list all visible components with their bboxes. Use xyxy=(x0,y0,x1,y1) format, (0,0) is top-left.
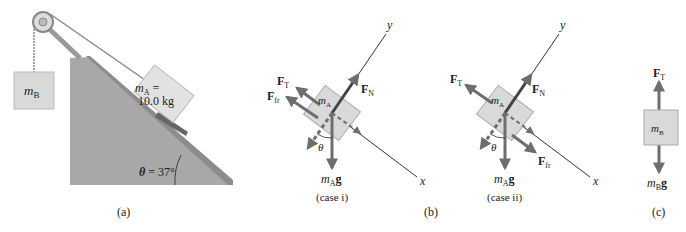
theta-arc xyxy=(317,134,332,138)
friction-label: Ffr xyxy=(267,89,280,105)
panel-c-label: (c) xyxy=(652,205,665,219)
pulley-hub xyxy=(39,18,47,26)
theta-label: θ xyxy=(318,141,324,153)
panel-b-case-ii: y x θ FT FN Ffr mA mAg (case ii) xyxy=(450,18,599,204)
case-i-label: (case i) xyxy=(316,191,348,204)
figure: mB mA = 10.0 kg θ = 37° (a) y x θ FT Ffr xyxy=(0,0,686,232)
panel-c: mB FT mBg (c) xyxy=(644,66,678,219)
theta-arc xyxy=(490,134,505,138)
y-axis-label: y xyxy=(559,18,566,32)
panel-b-label: (b) xyxy=(424,205,438,219)
block-b-fbd xyxy=(644,110,678,145)
friction-label: Ffr xyxy=(538,154,551,170)
tension-label: FT xyxy=(450,72,462,88)
normal-label: FN xyxy=(532,82,545,98)
x-axis-label: x xyxy=(419,174,426,188)
normal-label: FN xyxy=(361,82,374,98)
theta-label: θ xyxy=(491,141,497,153)
tension-label: FT xyxy=(653,66,665,82)
case-ii-label: (case ii) xyxy=(487,191,522,204)
tension-label: FT xyxy=(277,74,289,90)
panel-a: mB mA = 10.0 kg θ = 37° (a) xyxy=(14,12,233,219)
weight-label: mAg xyxy=(494,172,514,188)
y-axis-label: y xyxy=(386,18,393,32)
angle-label: θ = 37° xyxy=(139,165,175,179)
tension-arrow xyxy=(466,85,492,103)
weight-label: mAg xyxy=(321,172,341,188)
block-a-label-value: 10.0 kg xyxy=(138,94,174,108)
weight-label: mBg xyxy=(647,176,667,192)
panel-b-case-i: y x θ FT Ffr FN mA mAg (case i) (b) xyxy=(267,18,438,219)
x-axis-label: x xyxy=(592,174,599,188)
friction-arrow xyxy=(512,135,535,152)
panel-a-label: (a) xyxy=(117,205,130,219)
